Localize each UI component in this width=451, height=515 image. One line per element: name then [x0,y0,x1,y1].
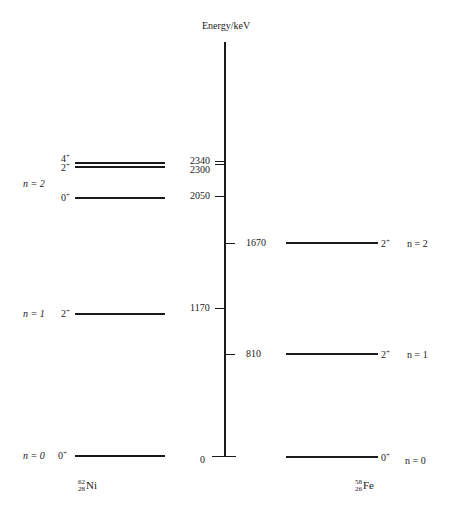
fe-spin-0plus-n0: 0+ [381,453,390,463]
fe-phonon-n0: n = 0 [405,456,426,466]
fe-level-0plus-n0 [286,456,378,458]
axis-label: Energy/keV [202,21,250,31]
fe-spin-2plus-n2: 2+ [381,239,390,249]
fe-phonon-n1: n = 1 [407,350,428,360]
tick-label-1170: 1170 [190,303,210,313]
ni-spin-0plus-n2: 0+ [61,193,70,203]
ni-phonon-n2: n = 2 [23,179,45,189]
ni-level-0plus-n2 [75,197,165,199]
ni-phonon-n1: n = 1 [23,309,45,319]
tick-2050 [215,196,225,197]
ni-level-4plus [75,162,165,164]
tick-2300 [215,164,225,165]
ni-level-2plus-n2 [75,166,165,168]
fe-level-2plus-n2 [286,242,378,244]
fe-spin-2plus-n1: 2+ [381,350,390,360]
tick-label-2050: 2050 [190,191,210,201]
tick-label-0: 0 [200,455,205,465]
ni-spin-2plus-n1: 2+ [61,309,70,319]
ni-spin-0plus-n0: 0+ [58,451,67,461]
nucleus-label-ni62: 6228Ni [78,479,97,493]
ni-phonon-n0: n = 0 [23,451,45,461]
fe-level-2plus-n1 [286,353,378,355]
tick-label-810: 810 [246,349,261,359]
ni-level-2plus-n1 [75,313,165,315]
tick-0 [212,456,236,457]
nucleus-label-fe58: 5826Fe [355,479,374,493]
tick-label-1670: 1670 [246,238,266,248]
ni-spin-2plus-n2: 2+ [61,163,70,173]
energy-axis [224,42,226,457]
tick-1670 [225,243,235,244]
tick-2340 [215,161,225,162]
fe-phonon-n2: n = 2 [407,239,428,249]
tick-1170 [215,308,225,309]
tick-810 [225,354,235,355]
tick-label-2300: 2300 [190,165,210,175]
ni-level-0plus-n0 [75,455,165,457]
